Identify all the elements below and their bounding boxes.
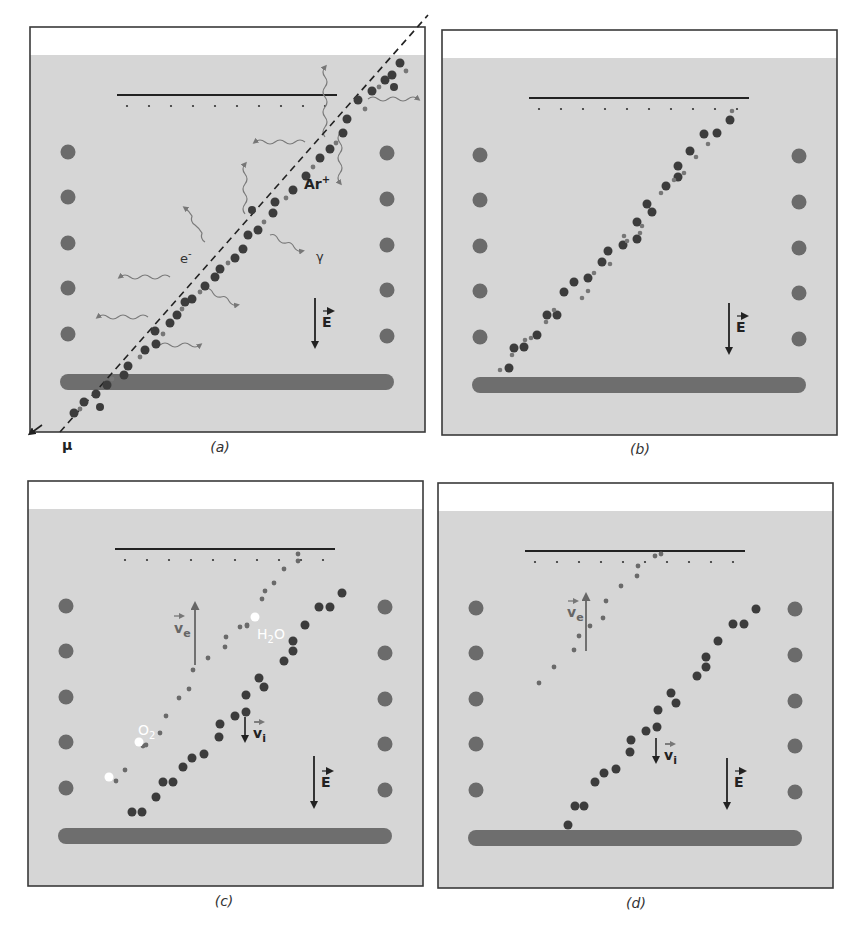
caption-b: (b)	[630, 441, 650, 457]
electric-field-label: E	[321, 774, 331, 790]
drift-chamber-figure: Ar+ e- γ E μ (a)	[0, 0, 854, 935]
electric-field-label: E	[322, 314, 332, 330]
panel-c: ve vi H2O O2 E	[28, 481, 423, 886]
panel-b: E	[442, 30, 837, 435]
electric-field-label: E	[736, 319, 746, 335]
panel-d: ve vi E	[438, 483, 833, 888]
chamber-body	[28, 481, 423, 886]
panel-a: Ar+ e- γ E μ	[30, 15, 428, 453]
chamber-body	[30, 27, 425, 432]
electric-field-label: E	[734, 774, 744, 790]
photon-label: γ	[316, 249, 324, 264]
caption-c: (c)	[215, 893, 234, 909]
caption-a: (a)	[210, 439, 230, 455]
muon-label: μ	[62, 437, 72, 453]
chamber-body	[438, 483, 833, 888]
caption-d: (d)	[626, 895, 646, 911]
